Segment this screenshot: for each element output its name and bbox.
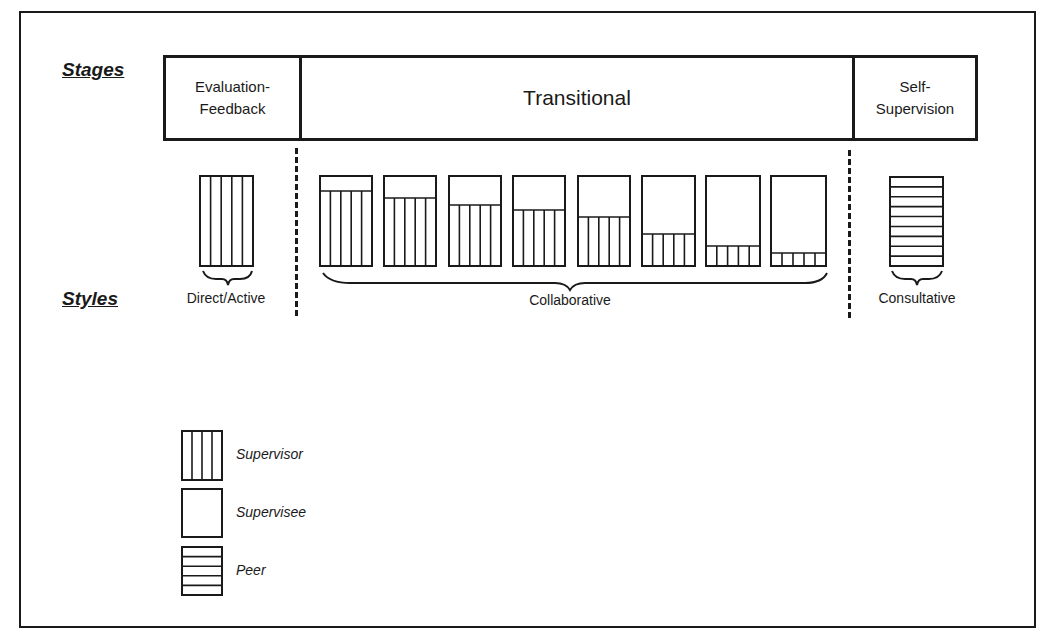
collaborative-box-3 [449,176,501,266]
style-collaborative: Collaborative [500,292,640,308]
legend-supervisor-label: Supervisor [236,446,303,462]
legend-supervisee-swatch [182,489,222,537]
style-direct-active: Direct/Active [170,290,282,306]
collaborative-box-2 [384,176,436,266]
collaborative-box-6 [642,176,695,266]
styles-diagram [0,0,1054,643]
consultative-brace [892,271,942,285]
legend-peer-swatch [182,547,222,595]
collaborative-box-5 [578,176,630,266]
collaborative-box-1 [320,176,372,266]
direct-brace [203,271,252,285]
collaborative-box-4 [513,176,565,266]
legend-supervisee-label: Supervisee [236,504,306,520]
legend-peer-label: Peer [236,562,266,578]
collaborative-box-7 [706,176,760,266]
collaborative-brace [323,273,827,290]
direct-active-box [200,176,253,266]
style-consultative: Consultative [864,290,970,306]
consultative-box [890,177,943,266]
